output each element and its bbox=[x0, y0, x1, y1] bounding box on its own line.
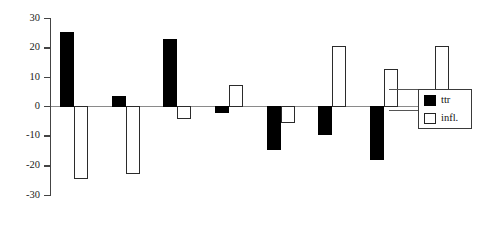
legend-swatch-ttr-icon bbox=[425, 96, 436, 106]
bar-ttr-2 bbox=[112, 96, 125, 106]
bar-infl-1 bbox=[75, 107, 88, 179]
bar-ttr-1 bbox=[61, 33, 74, 107]
legend-entry-infl[interactable]: infl. bbox=[425, 112, 459, 123]
y-tick-label-minus20: -20 bbox=[26, 159, 40, 170]
bar-ttr-5 bbox=[267, 107, 280, 150]
legend-label-ttr: ttr bbox=[441, 94, 451, 105]
y-tick-label-20: 20 bbox=[30, 41, 41, 52]
y-tick-label-minus10: -10 bbox=[26, 129, 40, 140]
bar-infl-3 bbox=[178, 107, 191, 119]
bar-infl-7 bbox=[384, 70, 397, 107]
bar-infl-4 bbox=[229, 86, 242, 107]
chart-canvas: 30 20 10 0 -10 -20 -30 ttr infl. bbox=[0, 0, 487, 225]
bar-chart-figure: 30 20 10 0 -10 -20 -30 ttr infl. bbox=[0, 0, 487, 225]
bar-infl-5 bbox=[281, 107, 294, 123]
bar-ttr-4 bbox=[215, 107, 228, 113]
bar-ttr-3 bbox=[164, 39, 177, 106]
legend-label-infl: infl. bbox=[441, 112, 458, 123]
y-tick-label-minus30: -30 bbox=[26, 189, 40, 200]
y-tick-label-0: 0 bbox=[35, 100, 40, 111]
legend[interactable]: ttr infl. bbox=[419, 90, 472, 129]
legend-swatch-infl-icon bbox=[425, 114, 436, 124]
bar-ttr-7 bbox=[370, 107, 383, 160]
bar-ttr-6 bbox=[319, 107, 332, 135]
y-tick-label-30: 30 bbox=[30, 12, 41, 23]
y-tick-label-10: 10 bbox=[30, 71, 41, 82]
bar-infl-6 bbox=[333, 46, 346, 106]
bar-infl-2 bbox=[126, 107, 139, 174]
